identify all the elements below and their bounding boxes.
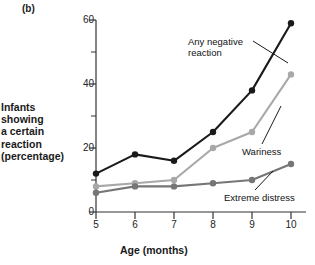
data-point: [93, 170, 99, 176]
data-point: [210, 129, 216, 135]
data-point: [132, 183, 138, 189]
data-point: [171, 183, 177, 189]
data-point: [288, 20, 294, 26]
markers-any-negative-reaction: [93, 20, 294, 177]
figure-panel-b: (b) Infants showing a certain reaction (…: [0, 0, 315, 265]
leader-line-extreme-distress: [255, 171, 273, 190]
data-point: [171, 177, 177, 183]
line-any-negative-reaction: [96, 23, 291, 173]
data-point: [288, 71, 294, 77]
line-wariness: [96, 74, 291, 186]
data-point: [132, 151, 138, 157]
series-group: [93, 20, 294, 196]
data-point: [249, 129, 255, 135]
data-point: [210, 180, 216, 186]
data-point: [249, 87, 255, 93]
data-point: [249, 177, 255, 183]
plot-area: [0, 0, 315, 265]
markers-extreme-distress: [93, 161, 294, 196]
line-extreme-distress: [96, 164, 291, 193]
data-point: [210, 145, 216, 151]
data-point: [171, 158, 177, 164]
data-point: [93, 183, 99, 189]
data-point: [93, 190, 99, 196]
data-point: [288, 161, 294, 167]
markers-wariness: [93, 71, 294, 189]
